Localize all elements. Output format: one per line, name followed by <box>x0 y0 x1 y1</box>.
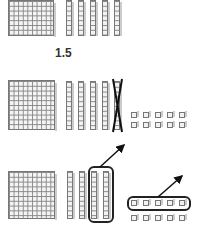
arrow-icon <box>158 176 182 197</box>
cross-out-icon <box>113 79 122 132</box>
arrow-icon <box>100 145 124 167</box>
annotations <box>0 0 198 231</box>
